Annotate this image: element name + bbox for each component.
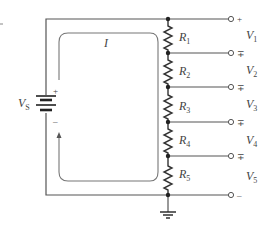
label-v5: V5 — [246, 169, 257, 185]
terminal-sign: + — [237, 14, 242, 24]
source-minus-sign: – — [52, 116, 58, 126]
wire-bottom — [46, 113, 168, 195]
terminal-sign: – — [236, 190, 242, 200]
node-dot — [166, 85, 170, 89]
label-r5: R5 — [178, 167, 190, 183]
label-v1: V1 — [246, 28, 257, 44]
ground-icon — [160, 212, 176, 218]
label-r1: R1 — [178, 30, 190, 46]
label-current: I — [103, 36, 109, 50]
label-v4: V4 — [246, 133, 257, 149]
node-dot — [166, 120, 170, 124]
battery-icon — [36, 96, 56, 110]
output-terminals — [228, 16, 233, 197]
resistor-r1-icon — [164, 19, 172, 53]
terminal-sign: ∓ — [237, 118, 245, 128]
terminal-icon — [228, 84, 233, 89]
source-plus-sign: + — [53, 86, 58, 96]
label-r2: R2 — [178, 64, 190, 80]
voltage-divider-diagram: + ∓ ∓ ∓ ∓ – R1 R2 R3 R4 R5 V1 V2 V3 V4 V… — [0, 0, 267, 233]
node-dot — [166, 17, 170, 21]
label-r3: R3 — [178, 99, 190, 115]
node-dot — [166, 193, 170, 197]
label-r4: R4 — [178, 133, 190, 149]
terminal-icon — [228, 192, 233, 197]
terminal-signs: + ∓ ∓ ∓ ∓ – — [236, 14, 245, 200]
terminal-icon — [228, 153, 233, 158]
node-dot — [166, 154, 170, 158]
terminal-icon — [228, 119, 233, 124]
label-v3: V3 — [246, 97, 257, 113]
terminal-sign: ∓ — [237, 49, 245, 59]
resistor-r2-icon — [164, 53, 172, 87]
resistor-r5-icon — [164, 156, 172, 195]
terminal-icon — [228, 16, 233, 21]
circuit-wires — [46, 19, 228, 212]
resistor-r4-icon — [164, 122, 172, 156]
resistor-r3-icon — [164, 87, 172, 122]
terminal-sign: ∓ — [237, 152, 245, 162]
terminal-icon — [228, 50, 233, 55]
label-vs: VS — [18, 96, 30, 112]
resistor-chain — [164, 19, 172, 195]
label-v2: V2 — [246, 63, 257, 79]
terminal-sign: ∓ — [237, 83, 245, 93]
wire-top — [46, 19, 168, 95]
node-dot — [166, 51, 170, 55]
current-arrow-icon — [57, 132, 62, 138]
current-loop-path — [59, 33, 158, 181]
output-voltage-labels: V1 V2 V3 V4 V5 — [246, 28, 257, 185]
